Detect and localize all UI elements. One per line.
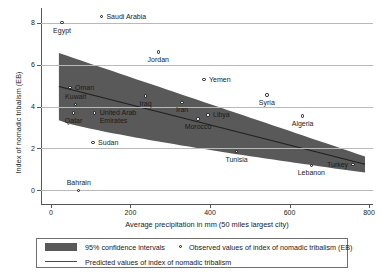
legend-row-line: Predicted values of index of nomadic tri… <box>37 254 347 269</box>
legend-row-band: 95% confidence intervals Observed values… <box>37 239 347 254</box>
data-point-label: Bahrain <box>67 179 91 186</box>
data-point[interactable] <box>93 111 96 114</box>
data-point[interactable] <box>144 94 147 97</box>
y-tick-label: 2 <box>21 145 35 152</box>
data-point-label: Egypt <box>53 27 71 34</box>
chart-legend: 95% confidence intervals Observed values… <box>36 238 348 268</box>
x-tick <box>210 204 211 208</box>
x-tick <box>130 204 131 208</box>
data-point-label: Qatar <box>65 117 83 124</box>
gridline <box>41 190 373 191</box>
data-point[interactable] <box>60 21 63 24</box>
x-tick <box>369 204 370 208</box>
data-point-label: Algeria <box>292 120 314 127</box>
confidence-band-swatch <box>45 243 77 251</box>
legend-line-label: Predicted values of index of nomadic tri… <box>85 259 231 266</box>
data-point-label: Libya <box>213 111 230 118</box>
x-axis-label: Average precipitation in mm (50 miles la… <box>41 220 373 229</box>
data-point-label: Kuwait <box>65 93 86 100</box>
gridline <box>41 65 373 66</box>
data-point-label: Syria <box>259 99 275 106</box>
data-point[interactable] <box>196 117 199 120</box>
data-point-label: Sudan <box>98 139 118 146</box>
x-tick-label: 600 <box>275 209 305 216</box>
x-tick-label: 200 <box>115 209 145 216</box>
y-tick <box>37 190 41 191</box>
y-tick <box>37 107 41 108</box>
gridline <box>41 107 373 108</box>
data-point-label: Yemen <box>209 76 231 83</box>
x-tick-label: 400 <box>195 209 225 216</box>
data-point-label: Morocco <box>185 123 212 130</box>
data-point-label: Iraq <box>140 100 152 107</box>
data-point-label: Tunisia <box>225 156 247 163</box>
data-point[interactable] <box>180 101 183 104</box>
scatter-chart: Index of nomadic tribalism (EB) Average … <box>0 0 382 276</box>
data-point-label: Saudi Arabia <box>106 13 146 20</box>
y-tick <box>37 65 41 66</box>
y-tick-label: 6 <box>21 61 35 68</box>
y-tick <box>37 23 41 24</box>
data-point-label: Turkey <box>327 161 348 168</box>
legend-band-label: 95% confidence intervals <box>85 244 165 251</box>
y-tick-label: 4 <box>21 103 35 110</box>
plot-area: 02468 Saudi ArabiaEgyptJordanYemenOmanSy… <box>41 10 373 202</box>
y-tick-label: 8 <box>21 19 35 26</box>
data-point[interactable] <box>202 78 205 81</box>
data-point[interactable] <box>157 50 160 53</box>
data-point[interactable] <box>351 163 354 166</box>
legend-points-label: Observed values of index of nomadic trib… <box>189 244 352 251</box>
gridline <box>41 148 373 149</box>
data-point-label: Iran <box>176 106 188 113</box>
observed-point-swatch <box>179 245 182 248</box>
gridline <box>41 23 373 24</box>
data-point-label: Oman <box>75 84 94 91</box>
y-tick-label: 0 <box>21 187 35 194</box>
x-tick <box>290 204 291 208</box>
x-tick-label: 0 <box>36 209 66 216</box>
x-axis-line <box>41 204 373 205</box>
predicted-line-swatch <box>45 261 77 262</box>
data-point[interactable] <box>310 164 313 167</box>
data-point-label: United Arab Emirates <box>100 109 144 125</box>
y-tick <box>37 148 41 149</box>
data-point[interactable] <box>91 141 94 144</box>
data-point[interactable] <box>206 113 209 116</box>
data-point[interactable] <box>265 93 268 96</box>
data-point[interactable] <box>72 111 75 114</box>
x-tick <box>51 204 52 208</box>
data-point[interactable] <box>100 15 103 18</box>
data-point[interactable] <box>301 114 304 117</box>
data-point-label: Jordan <box>148 56 169 63</box>
data-point-label: Lebanon <box>298 169 325 176</box>
data-point[interactable] <box>68 86 71 89</box>
x-tick-label: 800 <box>354 209 382 216</box>
